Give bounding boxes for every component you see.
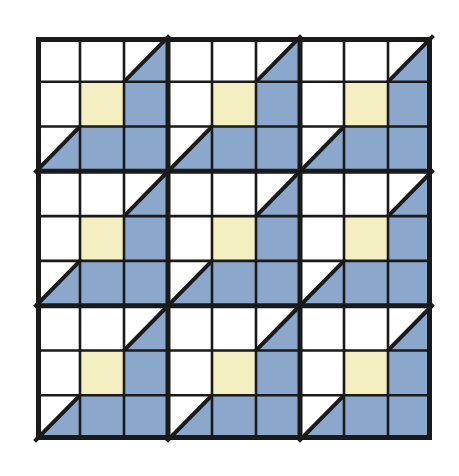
quilt-cell-r0c1 bbox=[212, 171, 256, 216]
quilt-cell-r0c0 bbox=[300, 37, 344, 82]
quilt-cell-r1c0 bbox=[300, 216, 344, 261]
quilt-cell-r1c1 bbox=[212, 82, 256, 127]
quilt-pattern-figure bbox=[0, 0, 459, 476]
quilt-cell-r1c2 bbox=[388, 350, 432, 395]
quilt-cell-r1c0 bbox=[168, 216, 212, 261]
quilt-cell-r0c0 bbox=[168, 171, 212, 216]
quilt-cell-r1c0 bbox=[36, 216, 80, 261]
quilt-cell-r1c2 bbox=[388, 216, 432, 261]
quilt-cell-r0c0 bbox=[300, 306, 344, 351]
quilt-cell-r1c1 bbox=[80, 82, 124, 127]
quilt-cell-r2c2 bbox=[256, 127, 300, 172]
quilt-cell-r0c1 bbox=[344, 306, 388, 351]
quilt-cell-r1c1 bbox=[344, 350, 388, 395]
quilt-cell-r2c1 bbox=[212, 395, 256, 440]
quilt-cell-r2c2 bbox=[388, 261, 432, 306]
quilt-cell-r0c0 bbox=[300, 171, 344, 216]
quilt-cell-r2c2 bbox=[388, 127, 432, 172]
quilt-cell-r1c2 bbox=[256, 82, 300, 127]
quilt-cell-r2c2 bbox=[124, 127, 168, 172]
quilt-cell-r0c1 bbox=[344, 171, 388, 216]
quilt-cell-r2c1 bbox=[212, 261, 256, 306]
quilt-cell-r0c1 bbox=[212, 37, 256, 82]
quilt-cell-r1c2 bbox=[124, 216, 168, 261]
quilt-cell-r1c2 bbox=[256, 350, 300, 395]
quilt-cell-r1c1 bbox=[80, 350, 124, 395]
quilt-cell-r1c1 bbox=[80, 216, 124, 261]
quilt-cell-r0c1 bbox=[344, 37, 388, 82]
quilt-cell-r2c2 bbox=[256, 261, 300, 306]
quilt-cell-r1c1 bbox=[212, 350, 256, 395]
quilt-block bbox=[168, 171, 300, 305]
quilt-cell-r1c0 bbox=[36, 82, 80, 127]
quilt-cell-r1c0 bbox=[168, 82, 212, 127]
quilt-block bbox=[168, 37, 300, 171]
quilt-cell-r0c0 bbox=[36, 171, 80, 216]
quilt-cell-r0c0 bbox=[168, 37, 212, 82]
quilt-block bbox=[300, 306, 432, 440]
quilt-cell-r0c1 bbox=[80, 37, 124, 82]
quilt-block bbox=[36, 171, 168, 305]
quilt-cell-r1c1 bbox=[344, 216, 388, 261]
blocks-layer bbox=[36, 37, 432, 440]
quilt-cell-r0c0 bbox=[168, 306, 212, 351]
quilt-cell-r1c0 bbox=[168, 350, 212, 395]
quilt-block bbox=[300, 171, 432, 305]
quilt-block bbox=[168, 306, 300, 440]
quilt-cell-r1c2 bbox=[388, 82, 432, 127]
quilt-cell-r0c0 bbox=[36, 37, 80, 82]
quilt-cell-r2c1 bbox=[80, 395, 124, 440]
quilt-cell-r0c0 bbox=[36, 306, 80, 351]
quilt-cell-r0c1 bbox=[212, 306, 256, 351]
quilt-cell-r2c1 bbox=[212, 127, 256, 172]
quilt-cell-r1c0 bbox=[36, 350, 80, 395]
quilt-cell-r2c2 bbox=[124, 395, 168, 440]
quilt-cell-r0c1 bbox=[80, 306, 124, 351]
quilt-cell-r1c1 bbox=[344, 82, 388, 127]
quilt-cell-r2c2 bbox=[124, 261, 168, 306]
quilt-cell-r2c2 bbox=[256, 395, 300, 440]
quilt-block bbox=[36, 306, 168, 440]
quilt-cell-r1c0 bbox=[300, 350, 344, 395]
quilt-block bbox=[300, 37, 432, 171]
quilt-cell-r2c1 bbox=[344, 127, 388, 172]
quilt-cell-r1c1 bbox=[212, 216, 256, 261]
quilt-cell-r2c1 bbox=[344, 261, 388, 306]
quilt-block bbox=[36, 37, 168, 171]
quilt-cell-r2c1 bbox=[80, 261, 124, 306]
quilt-cell-r1c2 bbox=[124, 82, 168, 127]
quilt-cell-r2c1 bbox=[80, 127, 124, 172]
quilt-cell-r1c0 bbox=[300, 82, 344, 127]
quilt-cell-r1c2 bbox=[256, 216, 300, 261]
quilt-cell-r2c2 bbox=[388, 395, 432, 440]
quilt-cell-r2c1 bbox=[344, 395, 388, 440]
quilt-cell-r0c1 bbox=[80, 171, 124, 216]
quilt-cell-r1c2 bbox=[124, 350, 168, 395]
